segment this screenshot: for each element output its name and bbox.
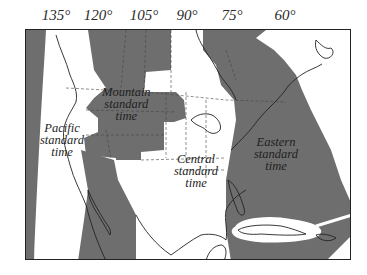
- yucatan-outline: [206, 245, 226, 260]
- longitude-label-60: 60°: [275, 7, 296, 24]
- newfoundland: [315, 40, 333, 58]
- central-zone-label: Central standard time: [174, 153, 218, 189]
- mountain-zone-label: Mountain standard time: [102, 86, 151, 122]
- pacific-zone-label: Pacific standard time: [40, 122, 84, 158]
- time-zone-map: Pacific standard time Mountain standard …: [25, 29, 351, 260]
- mountain-zone-shaded-south: [78, 150, 136, 260]
- longitude-label-105: 105°: [130, 7, 159, 24]
- longitude-label-75: 75°: [222, 7, 243, 24]
- longitude-label-120: 120°: [84, 7, 113, 24]
- eastern-zone-label: Eastern standard time: [254, 136, 298, 172]
- longitude-label-135: 135°: [42, 7, 71, 24]
- longitude-label-90: 90°: [177, 7, 198, 24]
